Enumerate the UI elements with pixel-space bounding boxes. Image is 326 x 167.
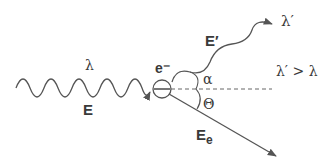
alpha-angle-label: α [203,72,212,86]
scattered-photon-wave [172,22,272,82]
incident-energy-label: E [83,102,93,117]
theta-angle-label: Θ [203,97,214,111]
electron-energy-label: Ee [196,127,213,142]
theta-angle-arc [196,89,200,109]
scattered-wavelength-label: λ′ [281,14,294,29]
diagram-graphics [0,0,326,167]
compton-scattering-diagram: λ E e⁻ E′ λ′ λ′ > λ α Θ Ee [0,0,326,167]
recoil-electron-arrow [169,94,276,156]
electron-energy-subscript: e [206,133,213,147]
electron-label: e⁻ [155,61,170,75]
electron-energy-symbol: E [196,126,206,143]
scattered-energy-label: E′ [205,33,219,48]
wavelength-relation-label: λ′ > λ [276,64,318,78]
alpha-angle-arc [190,72,198,89]
incident-photon-wave [16,79,150,97]
incident-wavelength-label: λ [85,58,94,72]
